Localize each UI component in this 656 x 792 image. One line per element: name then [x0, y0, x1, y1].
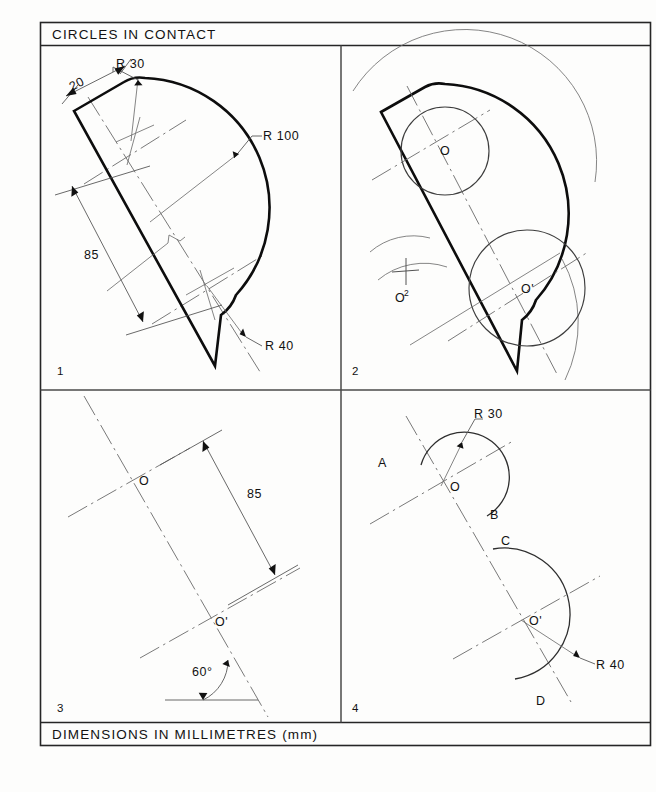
panel1-r40-label: R 40 [265, 339, 294, 353]
drawing-canvas: CIRCLES IN CONTACT DIMENSIONS IN MILLIME… [0, 0, 656, 792]
paper-background [0, 0, 656, 792]
panel1-dim85-label: 85 [84, 248, 99, 262]
sheet-footer: DIMENSIONS IN MILLIMETRES (mm) [52, 727, 318, 742]
panel4-label-oprime: O' [529, 614, 542, 628]
panel4-label-arc-b: B [490, 508, 499, 522]
panel1-number: 1 [57, 365, 63, 377]
panel4-label-arc-d: D [536, 694, 546, 708]
panel2-label-o2-superscript: 2 [404, 288, 409, 298]
panel4-label-arc-a: A [378, 456, 387, 470]
panel4-r40-label: R 40 [596, 658, 625, 672]
panel4-label-o: O [450, 480, 460, 494]
panel2-label-o: O [440, 144, 450, 158]
panel3-label-oprime: O' [215, 615, 228, 629]
panel4-label-arc-c: C [501, 534, 511, 548]
panel2-label-oprime: O' [521, 282, 534, 296]
panel4-number: 4 [352, 702, 359, 714]
panel2-number: 2 [352, 365, 358, 377]
sheet-title: CIRCLES IN CONTACT [52, 27, 216, 42]
panel1-r100-label: R 100 [263, 129, 299, 143]
panel3-label-o: O [139, 474, 149, 488]
panel4-r30-label: R 30 [474, 407, 503, 421]
panel3-angle-label: 60° [192, 665, 213, 679]
drawing-sheet: CIRCLES IN CONTACT DIMENSIONS IN MILLIME… [0, 0, 656, 792]
panel3-dim85-label: 85 [247, 487, 262, 501]
panel3-number: 3 [57, 702, 63, 714]
